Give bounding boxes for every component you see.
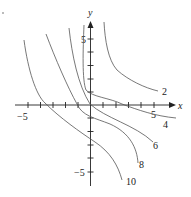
level-curves [24,22,176,180]
y-axis-arrow-icon [88,21,94,28]
curve-10 [24,40,122,180]
curve-4 [83,25,176,118]
x-axis-arrow-icon [169,102,176,108]
x-axis-label: x [177,100,183,111]
curve-2 [104,22,158,91]
curve-label-10: 10 [126,176,136,187]
x-neg-tick-label: −5 [17,111,28,122]
level-curves-plot: y x −5 5 5 −5 2 4 6 8 10 [0,0,191,197]
curve-label-6: 6 [153,140,158,151]
curve-label-2: 2 [162,86,167,97]
curve-label-8: 8 [139,159,144,170]
y-neg-tick-label: −5 [74,167,85,178]
curve-label-4: 4 [163,119,168,130]
curve-8 [46,34,138,163]
y-axis-label: y [87,7,93,18]
